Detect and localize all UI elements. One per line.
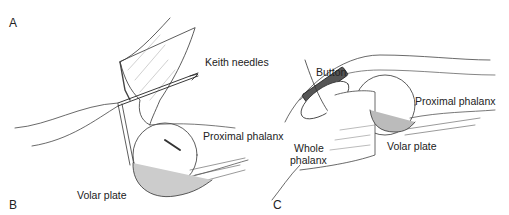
panel-label-c: C [273, 198, 282, 212]
label-keith-needles: Keith needles [205, 56, 269, 68]
medical-illustration: A B C Keith needles Proximal phalanx Vol… [0, 0, 509, 215]
label-whole-line2: phalanx [290, 154, 327, 166]
label-whole-line1: Whole [294, 142, 324, 154]
label-proximal-phalanx-right: Proximal phalanx [415, 95, 496, 107]
panel-label-a: A [9, 16, 17, 30]
label-button: Button [316, 66, 346, 78]
label-volar-plate-left: Volar plate [77, 189, 127, 201]
label-volar-plate-right: Volar plate [387, 140, 437, 152]
illustration-drawing [0, 0, 509, 215]
label-proximal-phalanx-left: Proximal phalanx [203, 130, 284, 142]
middle-phalanx-bone [120, 18, 195, 125]
panel-label-b: B [9, 198, 17, 212]
